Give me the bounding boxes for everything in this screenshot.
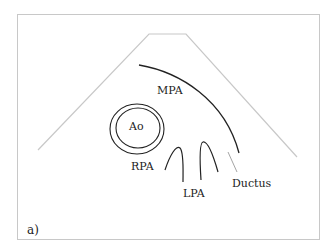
left-pulmonary-artery-branch (200, 142, 218, 180)
mpa-label: MPA (157, 85, 183, 96)
panel-label: a) (27, 224, 39, 236)
ao-label: Ao (129, 121, 144, 132)
echo-diagram (0, 0, 332, 249)
ductus-pointer-line (228, 152, 237, 172)
lpa-label: LPA (183, 188, 205, 199)
right-pulmonary-artery-branch (165, 147, 183, 182)
ductus-label: Ductus (232, 178, 271, 189)
rpa-label: RPA (131, 161, 154, 172)
